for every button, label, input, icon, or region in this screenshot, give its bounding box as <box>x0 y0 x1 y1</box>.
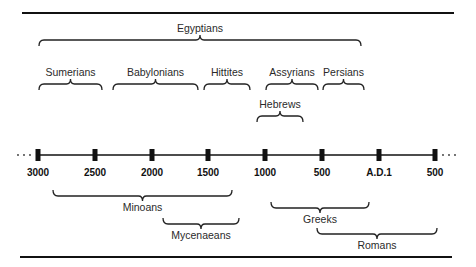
civilization-label: Persians <box>323 67 364 78</box>
tick-mark <box>433 149 438 161</box>
brace-assyrians <box>266 79 318 90</box>
tick-label: 500 <box>427 168 444 178</box>
civilization-label: Hebrews <box>259 99 300 110</box>
tick-label: 2000 <box>141 168 163 178</box>
tick-mark <box>320 149 325 161</box>
tick-label: 1500 <box>197 168 219 178</box>
brace-egyptians <box>39 35 361 46</box>
brace-romans <box>317 228 437 239</box>
brace-persians <box>323 79 364 90</box>
civilization-label: Assyrians <box>269 67 315 78</box>
tick-label: A.D.1 <box>366 168 392 178</box>
civilization-label: Minoans <box>123 202 163 213</box>
brace-sumerians <box>39 79 102 90</box>
civilization-label: Greeks <box>303 214 337 225</box>
civilization-label: Mycenaeans <box>171 230 231 241</box>
brace-mycenaeans <box>163 218 239 229</box>
civilization-label: Babylonians <box>127 67 184 78</box>
tick-label: 2500 <box>84 168 106 178</box>
tick-mark <box>206 149 211 161</box>
ellipsis-left-dot <box>23 154 25 156</box>
tick-mark <box>36 149 41 161</box>
tick-label: 500 <box>314 168 331 178</box>
ellipsis-left-dot <box>29 154 31 156</box>
timeline-axis <box>17 149 456 161</box>
brace-hittites <box>204 79 250 90</box>
ellipsis-right-dot <box>448 154 450 156</box>
civilization-label: Egyptians <box>177 23 223 34</box>
tick-mark <box>93 149 98 161</box>
tick-label: 1000 <box>254 168 276 178</box>
tick-mark <box>263 149 268 161</box>
tick-mark <box>150 149 155 161</box>
ellipsis-left-dot <box>17 154 19 156</box>
civilization-label: Sumerians <box>45 67 95 78</box>
ellipsis-right-dot <box>454 154 456 156</box>
brace-hebrews <box>257 111 303 122</box>
brace-babylonians <box>113 79 198 90</box>
brace-greeks <box>271 202 369 213</box>
civilization-label: Hittites <box>211 67 243 78</box>
tick-mark <box>377 149 382 161</box>
brace-minoans <box>53 190 232 201</box>
civilization-label: Romans <box>357 240 396 251</box>
timeline-graphics <box>0 0 476 267</box>
tick-label: 3000 <box>27 168 49 178</box>
ellipsis-right-dot <box>442 154 444 156</box>
